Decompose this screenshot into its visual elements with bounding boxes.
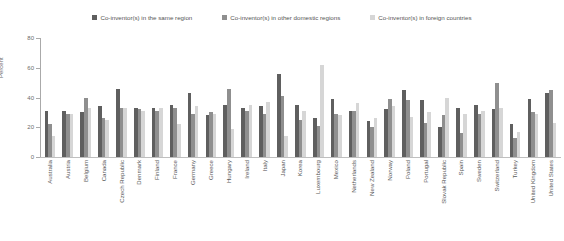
bar-group[interactable] [381, 38, 399, 157]
bar-group[interactable] [77, 38, 95, 157]
bar-group[interactable] [41, 38, 59, 157]
x-axis-category-label: Canada [100, 160, 106, 181]
bar-group[interactable] [274, 38, 292, 157]
bar-group[interactable] [291, 38, 309, 157]
x-axis-category: New Zealand [363, 159, 381, 237]
bar-group[interactable] [166, 38, 184, 157]
bar[interactable] [338, 115, 342, 157]
x-axis-category-label: Austria [65, 160, 71, 179]
x-axis-category: Canada [95, 159, 113, 237]
bar[interactable] [445, 98, 449, 158]
bar-group[interactable] [113, 38, 131, 157]
x-axis-category-label: Sweden [476, 160, 482, 182]
legend-item-foreign-countries[interactable]: Co-inventor(s) in foreign countries [370, 14, 471, 21]
bar[interactable] [284, 136, 288, 157]
bar[interactable] [231, 129, 235, 157]
x-axis-category: Belgium [77, 159, 95, 237]
legend-item-other-domestic-regions[interactable]: Co-inventor(s) in other domestic regions [222, 14, 340, 21]
x-axis-category: Sweden [470, 159, 488, 237]
legend-label-other-domestic-regions: Co-inventor(s) in other domestic regions [230, 14, 340, 21]
bar[interactable] [356, 103, 360, 157]
bar[interactable] [499, 108, 503, 157]
bar[interactable] [463, 114, 467, 157]
bar[interactable] [195, 106, 199, 157]
bar-group[interactable] [95, 38, 113, 157]
bar[interactable] [159, 108, 163, 157]
x-axis-category: Korea [291, 159, 309, 237]
bar-group[interactable] [452, 38, 470, 157]
bar-group[interactable] [130, 38, 148, 157]
bar-group[interactable] [435, 38, 453, 157]
x-axis-category-label: New Zealand [369, 160, 375, 196]
bar[interactable] [266, 102, 270, 157]
bar[interactable] [213, 114, 217, 157]
bar[interactable] [177, 124, 181, 157]
bar[interactable] [249, 105, 253, 157]
bar[interactable] [410, 117, 414, 157]
x-axis-category: Hungary [220, 159, 238, 237]
x-axis-category-label: Portugal [422, 160, 428, 183]
x-axis-category-label: Korea [297, 160, 303, 176]
bar-group[interactable] [202, 38, 220, 157]
bar[interactable] [553, 123, 557, 157]
bar-group[interactable] [399, 38, 417, 157]
y-axis-tick-label: 40 [16, 95, 34, 101]
x-axis-category: Finland [148, 159, 166, 237]
bar-group[interactable] [309, 38, 327, 157]
bar[interactable] [302, 111, 306, 157]
bar[interactable] [105, 120, 109, 157]
bar[interactable] [392, 106, 396, 157]
x-axis-category-label: Hungary [226, 160, 232, 183]
x-axis-category: Japan [274, 159, 292, 237]
bar-group[interactable] [542, 38, 560, 157]
bar[interactable] [88, 108, 92, 157]
bar[interactable] [141, 111, 145, 157]
x-axis-category: Italy [256, 159, 274, 237]
bar-group[interactable] [327, 38, 345, 157]
bar-group[interactable] [256, 38, 274, 157]
x-axis-category-label: Spain [458, 160, 464, 176]
x-axis-category: Slovak Republic [435, 159, 453, 237]
bar-group[interactable] [524, 38, 542, 157]
bar[interactable] [427, 112, 431, 157]
y-axis-tick [36, 157, 40, 158]
bar-group[interactable] [238, 38, 256, 157]
bar-group[interactable] [184, 38, 202, 157]
bar-group[interactable] [59, 38, 77, 157]
x-axis-category-label: Turkey [512, 160, 518, 178]
bar-group[interactable] [220, 38, 238, 157]
x-axis-category-label: Denmark [136, 160, 142, 185]
bar[interactable] [70, 114, 74, 157]
y-axis-tick [36, 38, 40, 39]
x-axis-category-label: Ireland [244, 160, 250, 179]
legend-item-same-region[interactable]: Co-inventor(s) in the same region [92, 14, 192, 21]
x-axis-category-labels: AustraliaAustriaBelgiumCanadaCzech Repub… [41, 159, 560, 237]
x-axis-category: Australia [41, 159, 59, 237]
bar[interactable] [52, 136, 56, 157]
bar[interactable] [481, 111, 485, 157]
bar[interactable] [517, 132, 521, 157]
x-axis-category-label: Australia [47, 160, 53, 184]
bar-group[interactable] [345, 38, 363, 157]
bar-group[interactable] [488, 38, 506, 157]
y-axis-title: Percent [0, 57, 4, 78]
bar[interactable] [535, 114, 539, 157]
x-axis-category-label: Greece [208, 160, 214, 180]
y-axis-tick-label: 0 [16, 154, 34, 160]
bar-group[interactable] [506, 38, 524, 157]
x-axis-category: United Kingdom [524, 159, 542, 237]
bar-group[interactable] [363, 38, 381, 157]
bar-group[interactable] [470, 38, 488, 157]
x-axis-category: United States [542, 159, 560, 237]
bar[interactable] [320, 65, 324, 157]
bar-group[interactable] [417, 38, 435, 157]
x-axis-category-label: Poland [405, 160, 411, 179]
bar-group[interactable] [148, 38, 166, 157]
chart-legend: Co-inventor(s) in the same region Co-inv… [0, 14, 564, 21]
x-axis-category: Turkey [506, 159, 524, 237]
y-axis-tick [36, 68, 40, 69]
x-axis-category: France [166, 159, 184, 237]
x-axis-category: Ireland [238, 159, 256, 237]
bar[interactable] [123, 108, 127, 157]
bar[interactable] [374, 118, 378, 157]
